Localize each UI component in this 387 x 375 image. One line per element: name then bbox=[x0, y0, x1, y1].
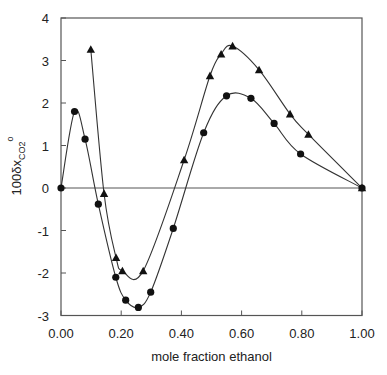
y-tick-label: 1 bbox=[42, 139, 49, 154]
circle-marker-icon bbox=[71, 108, 78, 115]
curve-circles bbox=[61, 93, 362, 308]
circle-marker-icon bbox=[271, 120, 278, 127]
y-tick-label: 3 bbox=[42, 54, 49, 69]
triangle-marker-icon bbox=[118, 267, 126, 275]
y-axis: -3-2-101234 bbox=[37, 11, 66, 324]
circle-marker-icon bbox=[81, 136, 88, 143]
series-markers bbox=[57, 42, 366, 311]
x-tick-label: 0.60 bbox=[229, 326, 254, 341]
triangle-marker-icon bbox=[139, 267, 147, 275]
y-tick-label: 2 bbox=[42, 96, 49, 111]
series-curves bbox=[61, 45, 362, 307]
triangle-marker-icon bbox=[180, 156, 188, 164]
triangle-marker-icon bbox=[286, 110, 294, 118]
y-tick-label: -3 bbox=[37, 309, 49, 324]
curve-triangles bbox=[91, 45, 362, 279]
triangle-marker-icon bbox=[206, 72, 214, 80]
y-axis-title-sup: o bbox=[5, 137, 15, 142]
plot-frame bbox=[61, 18, 362, 316]
x-axis-title: mole fraction ethanol bbox=[151, 349, 272, 364]
y-tick-label: 0 bbox=[42, 181, 49, 196]
y-axis-title-main: 100δx bbox=[9, 160, 24, 196]
triangle-marker-icon bbox=[112, 254, 120, 262]
circle-marker-icon bbox=[57, 184, 64, 191]
x-tick-label: 0.80 bbox=[289, 326, 314, 341]
y-axis-title-sub: CO2 bbox=[17, 142, 27, 161]
circle-marker-icon bbox=[95, 201, 102, 208]
y-tick-label: -1 bbox=[37, 224, 49, 239]
circle-marker-icon bbox=[200, 129, 207, 136]
circle-marker-icon bbox=[223, 92, 230, 99]
circle-marker-icon bbox=[147, 289, 154, 296]
circle-marker-icon bbox=[112, 274, 119, 281]
x-tick-label: 0.20 bbox=[109, 326, 134, 341]
x-tick-label: 0.40 bbox=[169, 326, 194, 341]
circle-marker-icon bbox=[247, 95, 254, 102]
chart: 0.000.200.400.600.801.00 -3-2-101234 mol… bbox=[0, 0, 387, 375]
triangle-marker-icon bbox=[100, 189, 108, 197]
circle-marker-icon bbox=[297, 150, 304, 157]
circle-marker-icon bbox=[170, 225, 177, 232]
circle-marker-icon bbox=[122, 297, 129, 304]
y-tick-label: 4 bbox=[42, 11, 49, 26]
y-tick-label: -2 bbox=[37, 266, 49, 281]
x-tick-label: 1.00 bbox=[349, 326, 374, 341]
triangle-marker-icon bbox=[87, 45, 95, 53]
svg-text:100δxCO2o: 100δxCO2o bbox=[5, 137, 27, 196]
x-tick-label: 0.00 bbox=[48, 326, 73, 341]
circle-marker-icon bbox=[135, 304, 142, 311]
triangle-marker-icon bbox=[217, 50, 225, 58]
y-axis-title: 100δxCO2o bbox=[5, 137, 27, 196]
